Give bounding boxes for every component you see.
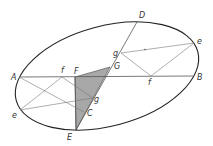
line-AC bbox=[19, 77, 84, 112]
line-gf-upper bbox=[121, 53, 151, 76]
label-E: E bbox=[67, 133, 73, 142]
label-g-upper: g bbox=[113, 49, 118, 58]
label-G: G bbox=[114, 62, 120, 71]
line-ef-left bbox=[20, 77, 62, 110]
label-e-left: e bbox=[12, 111, 17, 120]
label-f-left: f bbox=[61, 66, 65, 75]
label-F: F bbox=[74, 67, 79, 76]
label-D: D bbox=[139, 11, 145, 20]
midpoint-dot bbox=[144, 49, 146, 51]
label-g-lower: g bbox=[94, 95, 99, 104]
ellipse-diagram: A B D E F G C g g f f e e bbox=[0, 0, 213, 146]
label-B: B bbox=[197, 73, 203, 82]
label-f-right: f bbox=[148, 78, 152, 87]
label-C: C bbox=[87, 109, 93, 118]
label-e-right: e bbox=[197, 37, 202, 46]
label-A: A bbox=[10, 73, 16, 82]
